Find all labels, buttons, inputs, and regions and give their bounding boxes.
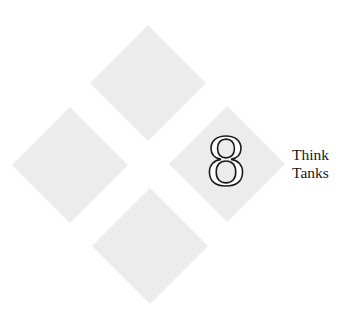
chapter-title: Think Tanks — [292, 146, 329, 182]
diamond-left — [12, 107, 128, 223]
chapter-number: 8 — [203, 127, 249, 199]
chapter-title-line-1: Think — [292, 146, 329, 164]
diamond-bottom — [92, 188, 208, 304]
chapter-title-line-2: Tanks — [292, 164, 329, 182]
diamond-top — [90, 25, 206, 141]
